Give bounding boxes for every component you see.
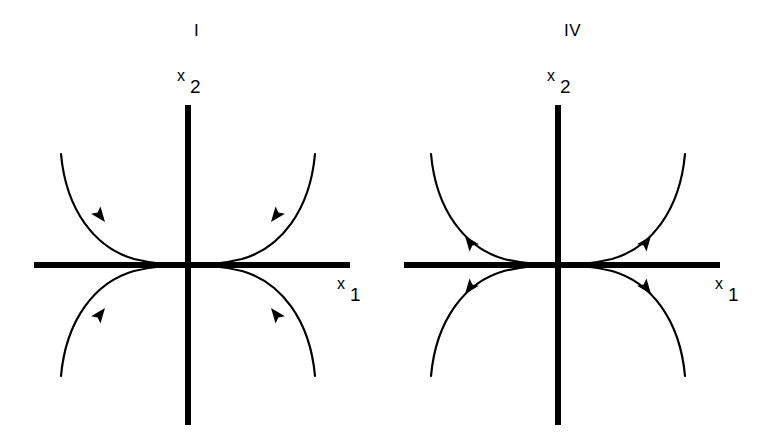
phase-portrait-panel-I: I x2 x1: [0, 0, 387, 442]
trajectory-upper-right: [558, 154, 685, 265]
trajectory-upper-right: [188, 154, 315, 265]
panel-IV-plot: [387, 0, 774, 442]
arrowhead-upper-right: [266, 206, 285, 225]
panel-I-plot: [0, 0, 387, 442]
arrowhead-lower-left: [91, 304, 110, 323]
trajectory-upper-left: [431, 154, 558, 265]
arrowhead-lower-right: [266, 304, 285, 323]
trajectory-lower-right: [188, 265, 315, 376]
trajectory-lower-left: [431, 265, 558, 376]
trajectory-lower-right: [558, 265, 685, 376]
phase-portrait-panel-IV: IV x2 x1: [387, 0, 774, 442]
trajectory-upper-left: [61, 154, 188, 265]
trajectory-lower-left: [61, 265, 188, 376]
arrowhead-upper-left: [91, 206, 110, 225]
phase-portrait-figure: I x2 x1: [0, 0, 774, 442]
